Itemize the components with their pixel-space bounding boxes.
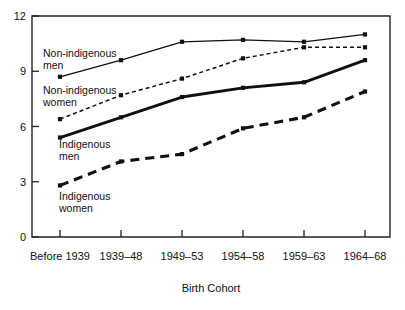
data-point-marker [302, 40, 306, 44]
y-tick-label: 0 [20, 231, 26, 243]
chart-figure: g Non-indigenousmenNon-indigenouswomenIn… [0, 0, 405, 310]
series-annotation: Non-indigenous [43, 47, 117, 59]
data-point-marker [302, 80, 306, 84]
x-tick-label: 1939–48 [100, 250, 143, 262]
data-point-marker [302, 45, 306, 49]
data-point-marker [180, 40, 184, 44]
data-point-marker [363, 58, 367, 62]
y-tick-label: 6 [20, 121, 26, 133]
x-tick-label: 1964–68 [344, 250, 387, 262]
series-annotation: Indigenous [59, 138, 110, 150]
y-tick-label: 9 [20, 65, 26, 77]
x-tick-label: 1954–58 [222, 250, 265, 262]
data-point-marker [119, 159, 123, 163]
data-point-marker [58, 183, 62, 187]
data-point-marker [180, 77, 184, 81]
series-annotation: Non-indigenous [43, 84, 117, 96]
data-point-marker [58, 75, 62, 79]
y-tick-label: 12 [14, 10, 26, 22]
data-point-marker [363, 32, 367, 36]
data-point-marker [180, 95, 184, 99]
data-point-marker [241, 56, 245, 60]
data-point-marker [180, 152, 184, 156]
data-point-marker [58, 117, 62, 121]
series-annotation: men [43, 59, 64, 71]
series-annotation: women [58, 202, 93, 214]
series-annotation: men [59, 150, 80, 162]
x-axis-title: Birth Cohort [182, 282, 241, 294]
x-tick-label: 1959–63 [283, 250, 326, 262]
data-point-marker [241, 126, 245, 130]
series-annotation: Indigenous [59, 190, 110, 202]
data-point-marker [363, 45, 367, 49]
data-point-marker [241, 38, 245, 42]
data-point-marker [302, 115, 306, 119]
line-chart: Non-indigenousmenNon-indigenouswomenIndi… [0, 0, 405, 310]
data-point-marker [119, 115, 123, 119]
data-point-marker [119, 58, 123, 62]
data-point-marker [363, 89, 367, 93]
y-tick-label: 3 [20, 176, 26, 188]
data-point-marker [119, 93, 123, 97]
x-tick-label: Before 1939 [30, 250, 90, 262]
x-axis-title-text: Birth Cohort [182, 282, 241, 294]
data-point-marker [241, 86, 245, 90]
series-annotation: women [42, 96, 77, 108]
x-tick-labels: Before 19391939–481949–531954–581959–631… [30, 250, 386, 262]
series-line-indigenous-men [60, 60, 365, 137]
x-tick-label: 1949–53 [161, 250, 204, 262]
y-tick-labels: 036912 [14, 10, 26, 243]
